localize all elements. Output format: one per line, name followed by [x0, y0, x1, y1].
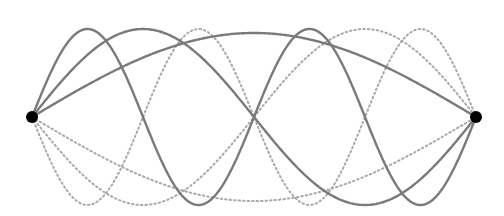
wave-canvas	[0, 0, 504, 216]
right-fixed-endpoint	[470, 111, 482, 123]
left-fixed-endpoint	[26, 111, 38, 123]
mode-4-solid-curve	[32, 29, 476, 205]
standing-wave-diagram	[0, 0, 504, 216]
solid-mode-curves	[32, 29, 476, 205]
